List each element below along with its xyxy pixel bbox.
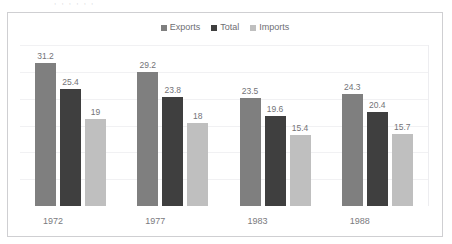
bar-slot-imports-1977[interactable]: 18 <box>187 45 208 206</box>
bar-exports[interactable] <box>240 98 261 206</box>
bar-value-label: 19 <box>91 107 100 117</box>
bar-value-label: 24.3 <box>344 82 361 92</box>
legend-item-exports[interactable]: Exports <box>161 23 201 32</box>
category-axis: 1972 1977 1983 1988 <box>20 214 429 228</box>
bar-slot-exports-1983[interactable]: 23.5 <box>240 45 261 206</box>
bar-slot-exports-1972[interactable]: 31.2 <box>35 45 56 206</box>
bar-value-label: 29.2 <box>139 60 156 70</box>
bar-group-1977: 29.2 23.8 18 <box>122 45 224 206</box>
bar-value-label: 25.4 <box>62 77 79 87</box>
plot-area: 31.2 25.4 19 29.2 23.8 <box>20 45 429 206</box>
bar-slot-total-1988[interactable]: 20.4 <box>367 45 388 206</box>
legend-label-imports: Imports <box>259 23 289 32</box>
bar-exports[interactable] <box>137 72 158 206</box>
bar-group-1983: 23.5 19.6 15.4 <box>225 45 327 206</box>
legend-item-total[interactable]: Total <box>211 23 239 32</box>
bar-value-label: 15.4 <box>292 123 309 133</box>
clipped-text-remnant: ,,,,,, <box>0 0 452 9</box>
bar-imports[interactable] <box>187 123 208 206</box>
legend-swatch-imports <box>250 25 256 31</box>
bar-slot-imports-1983[interactable]: 15.4 <box>290 45 311 206</box>
legend-swatch-exports <box>161 25 167 31</box>
bar-total[interactable] <box>367 112 388 206</box>
legend-label-total: Total <box>220 23 239 32</box>
bar-value-label: 23.8 <box>164 85 181 95</box>
bar-exports[interactable] <box>35 63 56 206</box>
bar-slot-exports-1977[interactable]: 29.2 <box>137 45 158 206</box>
bar-value-label: 31.2 <box>37 51 54 61</box>
bar-exports[interactable] <box>342 94 363 206</box>
bar-value-label: 15.7 <box>394 122 411 132</box>
category-cell-1972: 1972 <box>20 214 122 228</box>
bar-slot-total-1972[interactable]: 25.4 <box>60 45 81 206</box>
bar-total[interactable] <box>265 116 286 206</box>
bar-groups: 31.2 25.4 19 29.2 23.8 <box>20 45 429 206</box>
bar-total[interactable] <box>60 89 81 206</box>
chart-legend: Exports Total Imports <box>8 23 442 32</box>
category-label: 1977 <box>145 215 165 227</box>
bar-imports[interactable] <box>85 119 106 206</box>
bar-group-1972: 31.2 25.4 19 <box>20 45 122 206</box>
bar-value-label: 23.5 <box>242 86 259 96</box>
category-label: 1972 <box>43 215 63 227</box>
bar-value-label: 18 <box>193 111 202 121</box>
category-label: 1983 <box>248 215 268 227</box>
legend-label-exports: Exports <box>170 23 201 32</box>
bar-slot-exports-1988[interactable]: 24.3 <box>342 45 363 206</box>
category-cell-1988: 1988 <box>327 214 429 228</box>
legend-item-imports[interactable]: Imports <box>250 23 289 32</box>
category-cell-1977: 1977 <box>122 214 224 228</box>
category-label: 1988 <box>350 215 370 227</box>
bar-group-1988: 24.3 20.4 15.7 <box>327 45 429 206</box>
bar-slot-imports-1988[interactable]: 15.7 <box>392 45 413 206</box>
bar-slot-total-1977[interactable]: 23.8 <box>162 45 183 206</box>
bar-total[interactable] <box>162 97 183 206</box>
category-cell-1983: 1983 <box>225 214 327 228</box>
bar-slot-imports-1972[interactable]: 19 <box>85 45 106 206</box>
bar-value-label: 20.4 <box>369 100 386 110</box>
legend-swatch-total <box>211 25 217 31</box>
chart-frame: Exports Total Imports 31.2 <box>7 12 443 237</box>
bar-imports[interactable] <box>290 135 311 206</box>
bar-slot-total-1983[interactable]: 19.6 <box>265 45 286 206</box>
bar-value-label: 19.6 <box>267 104 284 114</box>
bar-imports[interactable] <box>392 134 413 206</box>
